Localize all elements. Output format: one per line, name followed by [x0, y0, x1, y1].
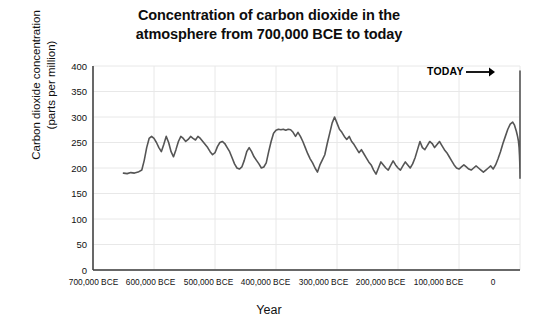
x-axis-label: Year: [0, 303, 538, 317]
plot-svg: [0, 0, 538, 331]
chart-figure: Concentration of carbon dioxide in the a…: [0, 0, 538, 331]
plot-area: Carbon dioxide concentration (parts per …: [0, 0, 538, 331]
today-arrow-icon: [466, 68, 495, 77]
data-line-co2: [124, 71, 521, 178]
today-annotation-label: TODAY: [427, 65, 464, 77]
